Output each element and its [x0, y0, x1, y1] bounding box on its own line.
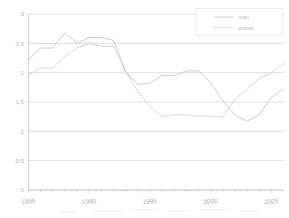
- scan-artifact-0: [92, 210, 122, 212]
- gridlines-group: [29, 14, 284, 190]
- y-axis-tick-labels: 00,511,522,53: [15, 10, 24, 193]
- y-tick-label-5: 2,5: [15, 40, 24, 47]
- x-axis-tickmarks: [29, 190, 284, 193]
- x-tick-label-1: 1990: [82, 197, 97, 205]
- x-tick-label-4: 2005: [264, 197, 279, 205]
- x-axis-tick-labels: 19851990199520002005: [21, 197, 279, 205]
- series-line-vrouw: [29, 43, 284, 117]
- legend-box: [196, 9, 283, 36]
- y-tick-label-6: 3: [21, 10, 25, 17]
- legend-label-vrouw: vrouw: [238, 25, 254, 31]
- y-tick-label-2: 1: [21, 128, 25, 135]
- scan-artifact-3: [200, 209, 228, 211]
- line-chart: 00,511,522,53 19851990199520002005 manvr…: [0, 0, 289, 218]
- y-tick-label-4: 2: [21, 69, 25, 76]
- series-line-man: [29, 33, 284, 122]
- legend: manvrouw: [196, 9, 283, 36]
- scan-artifact-5: [58, 211, 76, 212]
- scan-artifact-2: [168, 210, 190, 212]
- chart-canvas: 00,511,522,53 19851990199520002005 manvr…: [0, 0, 289, 218]
- scan-artifact-1: [132, 209, 158, 211]
- series-group: [29, 33, 284, 122]
- scan-artifact-4: [240, 210, 260, 212]
- bottom-artifact-smudge: [58, 209, 260, 212]
- x-tick-label-3: 2000: [203, 197, 218, 205]
- legend-label-man: man: [238, 14, 249, 20]
- y-tick-label-1: 0,5: [15, 157, 24, 164]
- y-tick-label-0: 0: [21, 186, 25, 193]
- x-tick-label-0: 1985: [21, 197, 36, 205]
- x-tick-label-2: 1995: [142, 197, 157, 205]
- y-tick-label-3: 1,5: [15, 98, 24, 105]
